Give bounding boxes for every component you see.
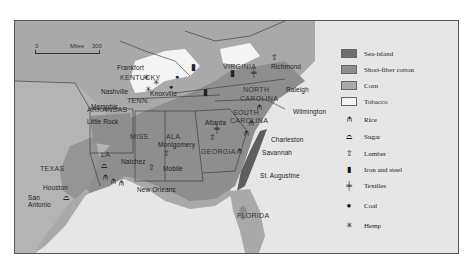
iron-steel-icon: ▮	[203, 87, 208, 97]
state-label-miss: MISS.	[130, 133, 151, 140]
city-richmond: Richmond	[271, 63, 301, 70]
rice-icon: ⫛	[244, 129, 249, 139]
city-knoxville: Knoxville	[150, 90, 177, 97]
legend-sugar: ⌓ Sugar	[341, 132, 380, 142]
state-label-north: NORTH	[243, 86, 269, 93]
legend-textiles: ╪ Textiles	[341, 181, 386, 190]
legend-tobacco: Tobacco	[341, 97, 388, 106]
legend-hemp: ✳ Hemp	[341, 221, 381, 230]
map-frame: 0 Miles 300 KENTUCKY TENN. VIRGINIA NORT…	[14, 20, 459, 254]
iron-steel-icon: ▮	[341, 165, 357, 174]
iron-steel-icon: ▮	[230, 68, 235, 78]
legend-label: Sugar	[364, 133, 380, 141]
hemp-icon: ✳	[341, 221, 357, 230]
legend-corn: Corn	[341, 81, 378, 90]
city-charleston: Charleston	[271, 136, 303, 143]
rice-icon: ⫛	[119, 179, 124, 189]
city-natchez: Natchez	[121, 158, 146, 165]
rice-icon: ⫛	[237, 147, 242, 157]
state-label-florida: FLORIDA	[237, 212, 269, 219]
lumber-icon: ⇧	[163, 149, 170, 158]
lumber-icon: ⇧	[148, 163, 155, 172]
legend-label: Short-fiber cotton	[364, 66, 414, 74]
sugar-icon: ⌓	[101, 161, 107, 171]
short-fiber-cotton-swatch	[341, 65, 357, 74]
rice-icon: ⫛	[103, 173, 108, 183]
hemp-icon: ✳	[153, 78, 160, 87]
state-label-texas: TEXAS	[40, 165, 64, 172]
state-label-ala: ALA.	[166, 133, 182, 140]
scale-end: 300	[92, 43, 102, 49]
city-little-rock: Little Rock	[87, 118, 118, 125]
textiles-icon: ╪	[341, 181, 357, 190]
legend-label: Sea-island	[364, 50, 393, 58]
city-montgomery: Montgomery	[158, 141, 195, 148]
state-label-south: SOUTH	[233, 109, 259, 116]
rice-icon: ⫛	[341, 115, 357, 125]
sea-island-swatch	[341, 49, 357, 58]
city-st-augustine: St. Augustine	[260, 172, 300, 179]
state-label-tenn: TENN.	[127, 97, 150, 104]
city-wilmington: Wilmington	[293, 108, 326, 115]
rice-icon: ⫛	[257, 103, 262, 113]
legend-label: Iron and steel	[364, 166, 402, 174]
coal-icon: ●	[169, 83, 173, 90]
city-savannah: Savannah	[262, 149, 292, 156]
rice-icon: ⫛	[249, 119, 254, 129]
iron-steel-icon: ▮	[191, 62, 196, 72]
legend-label: Lumber	[364, 150, 386, 158]
textiles-icon: ╪	[251, 68, 257, 77]
city-frankfort: Frankfort	[117, 64, 144, 71]
sugar-icon: ⌓	[63, 193, 69, 203]
rice-icon: ⫛	[111, 177, 116, 187]
scale-unit: Miles	[70, 43, 84, 49]
city-san-antonio-2: Antonio	[28, 201, 51, 208]
state-label-georgia: GEORGIA	[201, 148, 236, 155]
city-san-antonio-1: San	[28, 194, 40, 201]
coal-icon: ●	[175, 73, 179, 80]
city-nashville: Nashville	[101, 88, 128, 95]
lumber-icon: ⇧	[341, 149, 357, 158]
legend-sea-island: Sea-island	[341, 49, 393, 58]
city-houston: Houston	[43, 184, 68, 191]
legend-label: Rice	[364, 116, 377, 124]
coal-icon: ●	[341, 201, 357, 210]
hemp-icon: ✳	[143, 73, 150, 82]
hemp-icon: ✳	[145, 85, 152, 94]
city-mobile: Mobile	[163, 165, 183, 172]
legend-short-fiber-cotton: Short-fiber cotton	[341, 65, 414, 74]
legend-rice: ⫛ Rice	[341, 115, 377, 125]
state-label-la: LA	[101, 151, 110, 158]
city-memphis: Memphis	[91, 103, 118, 110]
legend-iron-steel: ▮ Iron and steel	[341, 165, 402, 174]
scale-bar: 0 Miles 300	[35, 43, 102, 54]
legend-label: Corn	[364, 82, 378, 90]
legend-label: Coal	[364, 202, 377, 210]
legend-label: Hemp	[364, 222, 381, 230]
sugar-icon: ⌓	[341, 132, 357, 142]
legend-label: Tobacco	[364, 98, 388, 106]
city-raleigh: Raleigh	[286, 86, 309, 93]
lumber-icon: ⇧	[271, 53, 278, 62]
scale-start: 0	[35, 43, 38, 49]
legend-coal: ● Coal	[341, 201, 377, 210]
tobacco-swatch	[341, 97, 357, 106]
legend-lumber: ⇧ Lumber	[341, 149, 386, 158]
textiles-icon: ╪	[214, 124, 220, 133]
corn-swatch	[341, 81, 357, 90]
state-label-north-carolina: CAROLINA	[240, 95, 278, 102]
legend-label: Textiles	[364, 182, 386, 190]
city-new-orleans: New Orleans	[137, 186, 176, 193]
lumber-icon: ⇧	[209, 133, 216, 142]
